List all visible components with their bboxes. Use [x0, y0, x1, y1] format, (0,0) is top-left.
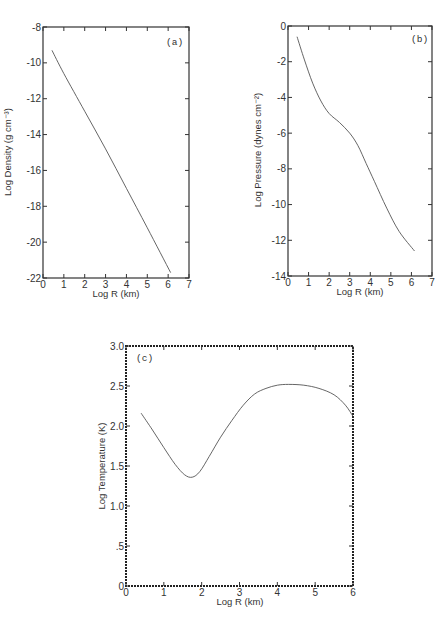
tick-marks: 01234560.51.01.52.02.53.0 — [110, 341, 356, 599]
panel-label: (c) — [136, 353, 153, 364]
x-tick-label: 2 — [199, 587, 205, 598]
figure: 01234567-8-10-12-14-16-18-20-22 (a) Log … — [0, 0, 447, 619]
x-tick-label: 0 — [40, 279, 46, 290]
y-tick-label: -12 — [27, 93, 42, 104]
y-tick-label: -10 — [27, 57, 42, 68]
y-tick-label: -4 — [277, 92, 286, 103]
y-tick-label: -10 — [272, 199, 287, 210]
panel-c-temperature: 01234560.51.01.52.02.53.0 (c) Log R (km)… — [96, 341, 356, 608]
panel-b-pressure: 012345670-2-4-6-8-10-12-14 (b) Log R (km… — [252, 21, 435, 298]
panel-label: (a) — [166, 37, 183, 48]
y-tick-label: -14 — [272, 271, 287, 282]
x-tick-label: 2 — [326, 277, 332, 288]
x-tick-label: 0 — [123, 587, 129, 598]
panel-label: (b) — [411, 34, 428, 45]
y-tick-label: -14 — [27, 129, 42, 140]
panel-a-density: 01234567-8-10-12-14-16-18-20-22 (a) Log … — [2, 22, 192, 300]
x-tick-label: 2 — [82, 279, 88, 290]
y-tick-label: 2.5 — [110, 381, 124, 392]
y-tick-label: 3.0 — [110, 341, 124, 352]
x-tick-label: 4 — [275, 587, 281, 598]
plot-frame — [126, 346, 353, 586]
x-tick-label: 0 — [285, 277, 291, 288]
y-tick-label: -22 — [27, 273, 42, 284]
plot-frame — [43, 27, 189, 278]
x-axis-label: Log R (km) — [337, 286, 384, 297]
x-tick-label: 7 — [186, 279, 192, 290]
x-tick-label: 7 — [429, 277, 435, 288]
tick-marks: 012345670-2-4-6-8-10-12-14 — [272, 21, 436, 289]
x-tick-label: 6 — [165, 279, 171, 290]
y-axis-label: Log Temperature (K) — [96, 423, 107, 510]
y-tick-label: -8 — [277, 163, 286, 174]
plot-frame — [288, 26, 432, 276]
x-axis-label: Log R (km) — [93, 288, 140, 299]
density-curve — [52, 50, 171, 272]
x-tick-label: 6 — [409, 277, 415, 288]
y-tick-label: -16 — [27, 165, 42, 176]
x-tick-label: 1 — [161, 587, 167, 598]
y-axis-label: Log Pressure (dynes cm⁻²) — [252, 93, 263, 207]
y-tick-label: -20 — [27, 237, 42, 248]
x-tick-label: 1 — [61, 279, 67, 290]
x-tick-label: 5 — [312, 587, 318, 598]
y-tick-label: -12 — [272, 235, 287, 246]
y-tick-label: -18 — [27, 201, 42, 212]
y-tick-label: 2.0 — [110, 421, 124, 432]
x-tick-label: 6 — [350, 587, 356, 598]
pressure-curve — [297, 37, 414, 251]
temperature-curve — [141, 384, 353, 477]
y-tick-label: -2 — [277, 56, 286, 67]
y-tick-label: 0 — [280, 21, 286, 32]
y-tick-label: -8 — [32, 22, 41, 33]
x-tick-label: 5 — [145, 279, 151, 290]
y-tick-label: 0 — [118, 581, 124, 592]
x-tick-label: 5 — [388, 277, 394, 288]
y-tick-label: -6 — [277, 128, 286, 139]
y-tick-label: 1.5 — [110, 461, 124, 472]
x-axis-label: Log R (km) — [217, 596, 264, 607]
y-tick-label: .5 — [116, 541, 125, 552]
y-tick-label: 1.0 — [110, 501, 124, 512]
x-tick-label: 1 — [306, 277, 312, 288]
y-axis-label: Log Density (g cm⁻³) — [2, 108, 13, 196]
